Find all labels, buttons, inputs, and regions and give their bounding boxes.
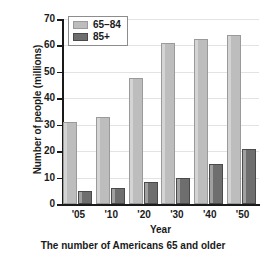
bar-group xyxy=(96,19,125,204)
x-axis-line xyxy=(62,204,260,206)
legend-swatch-icon-85-plus xyxy=(73,33,88,41)
bar-group xyxy=(161,19,190,204)
bar-highlight xyxy=(145,183,148,203)
legend-swatch-icon-65-84 xyxy=(73,21,88,29)
bar-group xyxy=(63,19,92,204)
bar-series-65-84 xyxy=(63,122,77,204)
x-tick-label: '20 xyxy=(137,209,151,220)
bar-group xyxy=(227,19,256,204)
chart-figure: Number of people (millions) 010203040506… xyxy=(0,0,266,256)
bar-series-85-plus xyxy=(242,149,256,205)
bar-series-65-84 xyxy=(129,78,143,204)
bar-highlight xyxy=(97,118,100,203)
y-tick-label: 30 xyxy=(44,120,55,130)
legend-label-85-plus: 85+ xyxy=(93,32,110,42)
legend-item-85-plus: 85+ xyxy=(73,32,121,42)
bar-highlight xyxy=(195,40,198,203)
plot-area: 010203040506070 '05'10'20'30'40'50 xyxy=(62,19,259,204)
chart-caption: The number of Americans 65 and older xyxy=(0,240,266,251)
bar-series-85-plus xyxy=(176,178,190,204)
bar-highlight xyxy=(112,189,115,203)
y-tick-label: 50 xyxy=(44,67,55,77)
x-axis-title: Year xyxy=(62,224,259,235)
x-tick-label: '05 xyxy=(72,209,86,220)
legend-label-65-84: 65–84 xyxy=(93,20,121,30)
y-tick-label: 10 xyxy=(44,173,55,183)
bar-highlight xyxy=(210,165,213,203)
bar-series-65-84 xyxy=(96,117,110,204)
y-tick-label: 60 xyxy=(44,40,55,50)
x-tick-label: '40 xyxy=(203,209,217,220)
bar-group xyxy=(194,19,223,204)
bar-highlight xyxy=(243,150,246,204)
y-tick-label: 20 xyxy=(44,146,55,156)
bar-series-65-84 xyxy=(194,39,208,204)
bar-series-65-84 xyxy=(161,43,175,204)
bar-series-85-plus xyxy=(78,191,92,204)
bar-highlight xyxy=(130,79,133,203)
bar-highlight xyxy=(228,36,231,203)
bar-highlight xyxy=(162,44,165,203)
chart-legend: 65–84 85+ xyxy=(68,16,128,46)
bar-group xyxy=(129,19,158,204)
bar-series-65-84 xyxy=(227,35,241,204)
y-tick-label: 0 xyxy=(49,199,55,209)
x-tick-label: '10 xyxy=(104,209,118,220)
bar-series-85-plus xyxy=(111,188,125,204)
bar-highlight xyxy=(177,179,180,203)
x-tick-label: '50 xyxy=(236,209,250,220)
bar-series-85-plus xyxy=(209,164,223,204)
legend-item-65-84: 65–84 xyxy=(73,20,121,30)
bar-series-85-plus xyxy=(144,182,158,204)
y-axis-title: Number of people (millions) xyxy=(32,15,43,205)
bar-highlight xyxy=(64,123,67,203)
bar-highlight xyxy=(79,192,82,203)
y-tick-label: 70 xyxy=(44,14,55,24)
y-tick-label: 40 xyxy=(44,93,55,103)
x-tick-label: '30 xyxy=(170,209,184,220)
